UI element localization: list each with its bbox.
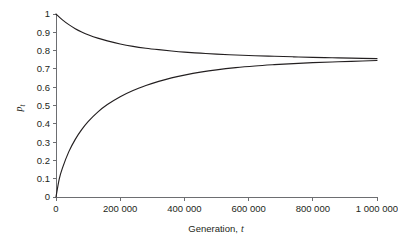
x-axis-title: Generation,t	[188, 223, 244, 234]
x-tick-label: 400 000	[167, 203, 201, 214]
y-tick-label: 0.5	[37, 100, 50, 111]
y-tick-label: 0.6	[37, 82, 50, 93]
x-tick-labels: 0200 000400 000600 000800 0001 000 000	[53, 203, 398, 214]
series-lower-trajectory	[56, 60, 377, 197]
x-tick-label: 200 000	[103, 203, 137, 214]
y-tick-label: 0.8	[37, 45, 50, 56]
y-tick-label: 0.2	[37, 155, 50, 166]
y-tick-label: 0.1	[37, 173, 50, 184]
x-tick-label: 600 000	[231, 203, 265, 214]
y-tick-label: 0.9	[37, 27, 50, 38]
series-upper-trajectory	[56, 14, 377, 59]
x-axis-title-var: t	[241, 223, 244, 234]
y-axis-title-sub: t	[19, 104, 27, 107]
chart-figure: 00.10.20.30.40.50.60.70.80.91 0200 00040…	[0, 0, 398, 238]
x-axis-title-text: Generation,	[188, 223, 238, 234]
y-tick-label: 0	[45, 191, 50, 202]
x-tick-marks	[56, 197, 377, 201]
y-tick-label: 0.4	[37, 118, 50, 129]
y-tick-label: 1	[45, 8, 50, 19]
y-axis-title-group: pt	[13, 104, 27, 113]
x-tick-label: 800 000	[296, 203, 330, 214]
y-tick-label: 0.7	[37, 63, 50, 74]
x-tick-label: 1 000 000	[356, 203, 398, 214]
plot-canvas: 00.10.20.30.40.50.60.70.80.91 0200 00040…	[0, 0, 398, 238]
y-tick-marks	[53, 14, 57, 197]
y-tick-labels: 00.10.20.30.40.50.60.70.80.91	[37, 8, 50, 202]
y-tick-label: 0.3	[37, 137, 50, 148]
x-tick-label: 0	[53, 203, 58, 214]
y-axis-title: pt	[13, 104, 27, 113]
